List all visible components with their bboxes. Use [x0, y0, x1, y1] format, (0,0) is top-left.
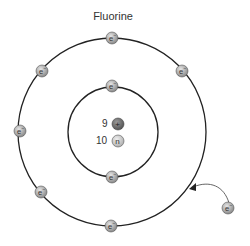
svg-text:−: −	[113, 220, 116, 226]
svg-text:−: −	[22, 125, 25, 131]
svg-text:−: −	[184, 65, 187, 71]
proton-count: 9	[102, 118, 108, 129]
electron-outer-top: e−	[106, 32, 118, 44]
svg-text:+: +	[115, 120, 120, 129]
svg-text:−: −	[230, 202, 233, 208]
inner-shell	[68, 87, 158, 177]
svg-text:−: −	[114, 80, 117, 86]
electron-inner-bottom: e−	[106, 171, 118, 183]
electrons: e− e− e− e− e− e− e− e− e−	[14, 32, 234, 232]
svg-text:−: −	[44, 65, 47, 71]
incoming-arrow	[193, 184, 229, 203]
atom-diagram: e− e− e− e− e− e− e− e− e− + n	[0, 0, 250, 246]
electron-incoming: e−	[222, 202, 234, 214]
svg-text:−: −	[43, 186, 46, 192]
electron-outer-upper-right: e−	[176, 65, 188, 77]
electron-outer-left: e−	[14, 125, 26, 137]
electron-inner-top: e−	[106, 80, 118, 92]
svg-text:−: −	[114, 32, 117, 38]
electron-outer-upper-left: e−	[36, 65, 48, 77]
svg-text:n: n	[115, 137, 119, 146]
svg-text:−: −	[114, 171, 117, 177]
electron-outer-bottom: e−	[105, 220, 117, 232]
nucleus: + n	[112, 118, 124, 147]
electron-outer-lower-left: e−	[35, 186, 47, 198]
neutron-count: 10	[96, 135, 107, 146]
